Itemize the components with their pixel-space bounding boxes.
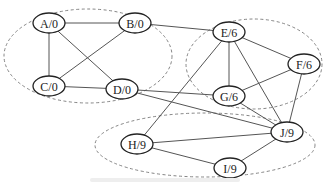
node-label: E/6 bbox=[221, 26, 238, 40]
node-I: I/9 bbox=[214, 158, 246, 178]
node-J: J/9 bbox=[271, 122, 303, 142]
node-label: F/6 bbox=[296, 58, 312, 72]
node-label: G/6 bbox=[220, 90, 238, 104]
graph-diagram: A/0B/0C/0D/0E/6F/6G/6H/9I/9J/9 bbox=[0, 0, 325, 189]
node-D: D/0 bbox=[106, 79, 138, 99]
node-label: B/0 bbox=[126, 17, 143, 31]
edge-E-H bbox=[137, 32, 229, 144]
node-label: H/9 bbox=[128, 138, 146, 152]
node-label: A/0 bbox=[40, 17, 58, 31]
node-F: F/6 bbox=[288, 54, 320, 74]
node-label: D/0 bbox=[113, 83, 131, 97]
edge-B-C bbox=[49, 23, 135, 86]
edge-H-J bbox=[137, 132, 287, 144]
node-B: B/0 bbox=[119, 13, 151, 33]
edge-D-J bbox=[122, 89, 287, 132]
node-E: E/6 bbox=[213, 22, 245, 42]
node-G: G/6 bbox=[213, 86, 245, 106]
node-C: C/0 bbox=[33, 76, 65, 96]
node-A: A/0 bbox=[33, 13, 65, 33]
node-label: C/0 bbox=[40, 80, 57, 94]
node-label: J/9 bbox=[280, 126, 294, 140]
node-H: H/9 bbox=[121, 134, 153, 154]
node-label: I/9 bbox=[223, 162, 236, 176]
caption-faded bbox=[90, 178, 240, 184]
